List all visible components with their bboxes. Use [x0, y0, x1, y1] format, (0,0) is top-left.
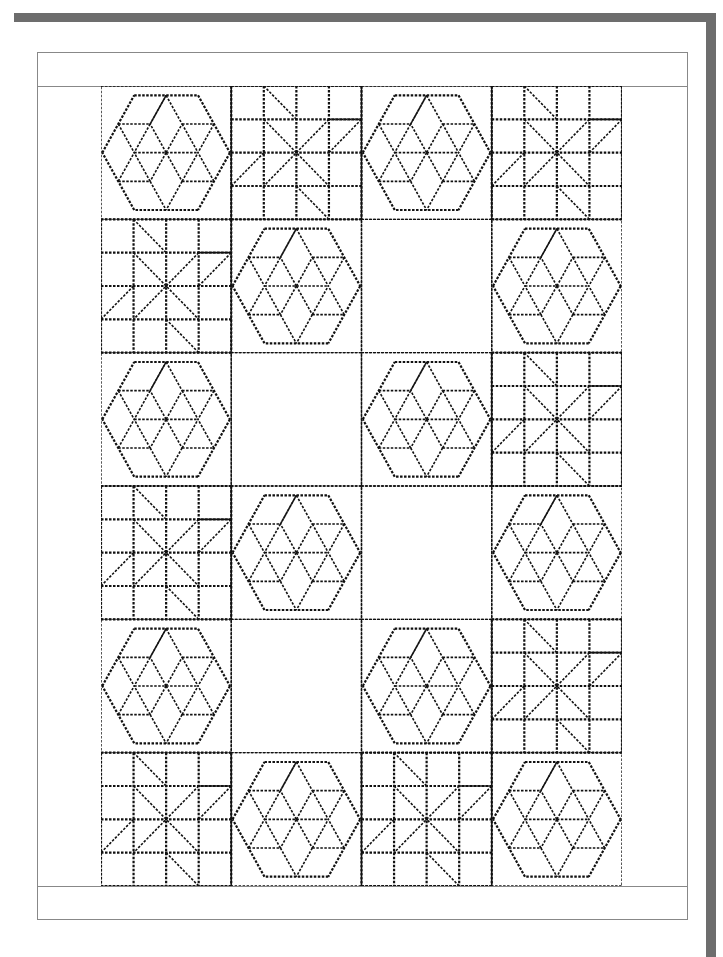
hexagon-star-block — [101, 86, 231, 219]
blank-block — [231, 353, 361, 486]
hexagon-star-block — [362, 86, 492, 219]
eight-point-star-block — [101, 486, 231, 619]
header-bar — [14, 13, 716, 22]
eight-point-star-block — [492, 619, 622, 752]
page-edge-bar — [706, 13, 716, 957]
hexagon-star-block — [492, 486, 622, 619]
eight-point-star-block — [492, 86, 622, 219]
hexagon-star-block — [492, 753, 622, 886]
hexagon-star-block — [492, 219, 622, 352]
hexagon-star-block — [231, 486, 361, 619]
eight-point-star-block — [101, 219, 231, 352]
eight-point-star-block — [101, 753, 231, 886]
eight-point-star-block — [231, 86, 361, 219]
quilt-pattern — [101, 86, 622, 886]
blank-block — [231, 619, 361, 752]
eight-point-star-block — [362, 753, 492, 886]
eight-point-star-block — [492, 353, 622, 486]
quilt-grid — [101, 86, 622, 886]
hexagon-star-block — [101, 353, 231, 486]
hexagon-star-block — [362, 619, 492, 752]
hexagon-star-block — [231, 753, 361, 886]
blank-block — [362, 219, 492, 352]
bottom-border-line — [37, 886, 688, 887]
hexagon-star-block — [362, 353, 492, 486]
blank-block — [362, 486, 492, 619]
hexagon-star-block — [231, 219, 361, 352]
hexagon-star-block — [101, 619, 231, 752]
